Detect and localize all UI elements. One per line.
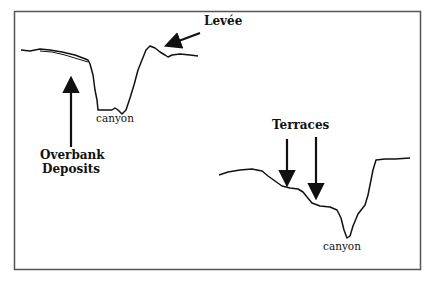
upper-canyon-label: canyon (96, 112, 134, 124)
levee-arrow (168, 33, 200, 45)
overbank-deposits-label: Overbank Deposits (40, 148, 102, 176)
diagram-svg (0, 0, 430, 283)
lower-canyon-label: canyon (323, 240, 361, 252)
diagram-frame (15, 12, 421, 270)
levee-label: Levée (204, 14, 242, 28)
upper-profile (21, 46, 198, 114)
diagram-canvas: Levée canyon Overbank Deposits Terraces … (0, 0, 430, 283)
lower-profile (219, 158, 410, 238)
terraces-label: Terraces (272, 118, 329, 132)
overbank-label-line1: Overbank (40, 148, 102, 162)
overbank-label-line2: Deposits (40, 162, 102, 176)
